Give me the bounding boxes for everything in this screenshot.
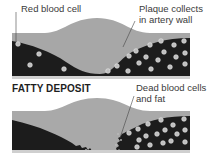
label-plaque-line2: in artery wall	[139, 15, 192, 25]
label-dead-cells-line1: Dead blood cells	[136, 83, 206, 93]
label-dead-cells-line2: and fat	[136, 94, 165, 104]
artery-bottom	[12, 96, 190, 153]
artery-bottom-strip-bottom	[12, 150, 190, 153]
artery-bottom-strip-top	[12, 76, 190, 79]
label-plaque-line1: Plaque collects	[139, 4, 203, 14]
title-fatty-deposit: FATTY DEPOSIT	[12, 83, 91, 94]
label-red-blood-cell: Red blood cell	[21, 4, 81, 14]
